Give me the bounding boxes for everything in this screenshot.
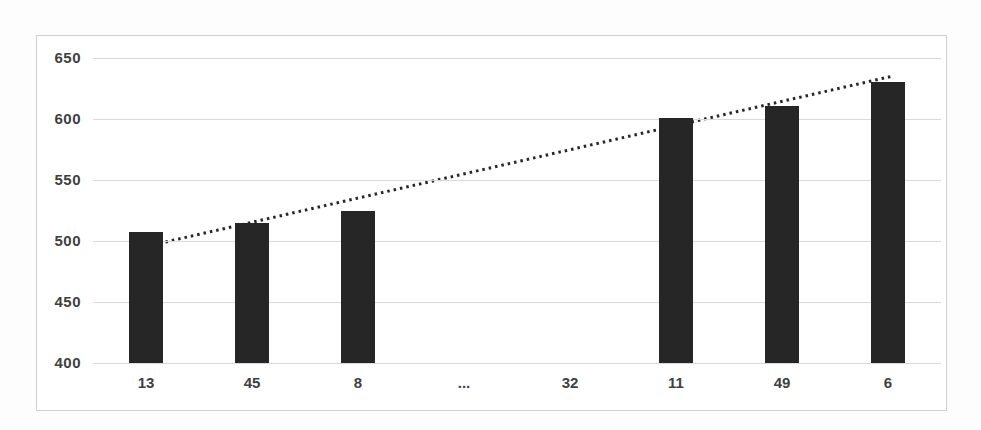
x-tick-label: 49 (740, 374, 824, 391)
y-tick-label: 500 (37, 232, 81, 249)
chart-frame: 400450500550600650 13458...3211496 (36, 35, 947, 411)
x-axis-labels: 13458...3211496 (93, 370, 941, 396)
x-tick-label: 45 (210, 374, 294, 391)
bar-6 (871, 82, 905, 363)
trendline-svg (93, 58, 941, 363)
y-tick-label: 650 (37, 49, 81, 66)
gridline (93, 119, 941, 120)
gridline (93, 302, 941, 303)
bar-49 (765, 106, 799, 363)
y-tick-label: 600 (37, 110, 81, 127)
bar-8 (341, 211, 375, 364)
gridline (93, 363, 941, 364)
bar-13 (129, 232, 163, 363)
bar-45 (235, 223, 269, 363)
x-tick-label: 13 (104, 374, 188, 391)
y-tick-label: 400 (37, 354, 81, 371)
x-tick-label: ... (422, 374, 506, 391)
x-tick-label: 8 (316, 374, 400, 391)
x-tick-label: 6 (846, 374, 930, 391)
gridline (93, 58, 941, 59)
y-tick-label: 450 (37, 293, 81, 310)
chart-page: 400450500550600650 13458...3211496 (0, 0, 981, 430)
y-axis-labels: 400450500550600650 (37, 36, 83, 410)
gridline (93, 241, 941, 242)
gridline (93, 180, 941, 181)
plot-area (93, 58, 941, 363)
bar-11 (659, 118, 693, 363)
x-tick-label: 32 (528, 374, 612, 391)
y-tick-label: 550 (37, 171, 81, 188)
x-tick-label: 11 (634, 374, 718, 391)
